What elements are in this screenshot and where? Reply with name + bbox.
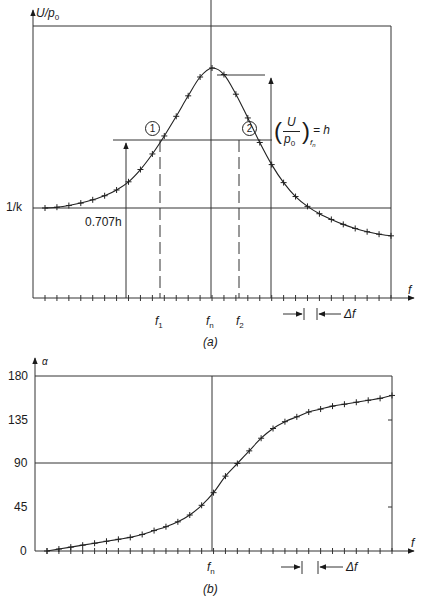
y-tick-135: 135: [8, 413, 28, 427]
half-power-label: 0.707h: [85, 215, 122, 229]
y-axis-label-b: α: [42, 356, 48, 367]
x-axis-label-b: f: [411, 536, 414, 550]
y-axis-label-a: U/p0: [36, 6, 59, 22]
phase-curve: [47, 395, 392, 551]
x-axis-label-a: f: [408, 283, 411, 297]
tick-label-fn-b: fn: [207, 560, 215, 576]
figure-a-frame: [33, 0, 414, 298]
delta-f-marker-a: [283, 308, 341, 320]
y-tick-0: 0: [20, 544, 27, 558]
phase-points: [44, 392, 395, 554]
tick-label-fn-a: fn: [206, 314, 214, 330]
peak-label: ( U p0 ) fn = h: [274, 113, 354, 153]
caption-a: (a): [203, 335, 218, 349]
y-tick-180: 180: [8, 369, 28, 383]
tick-label-f1: f1: [155, 314, 163, 330]
caption-b: (b): [203, 582, 218, 596]
figure-graphics: [0, 0, 426, 600]
figure-b-frame: [35, 358, 414, 551]
tick-label-f2: f2: [236, 314, 244, 330]
delta-f-label-a: Δf: [344, 307, 355, 321]
marker-2: 2: [242, 121, 257, 136]
delta-f-marker-b: [281, 561, 343, 574]
ref-label-1-over-k: 1/k: [6, 200, 22, 214]
y-tick-45: 45: [14, 500, 27, 514]
marker-1: 1: [145, 121, 160, 136]
delta-f-label-b: Δf: [346, 560, 357, 574]
y-tick-90: 90: [14, 456, 27, 470]
